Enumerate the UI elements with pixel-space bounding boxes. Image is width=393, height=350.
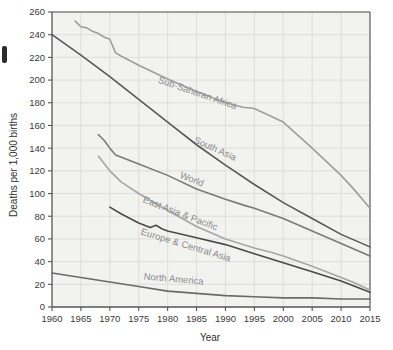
y-tick-label: 100 (29, 188, 45, 199)
x-tick-label: 1980 (157, 313, 178, 324)
x-tick-label: 2005 (302, 313, 323, 324)
y-tick-label: 160 (29, 120, 45, 131)
x-tick-label: 1960 (41, 313, 62, 324)
x-tick-label: 2010 (331, 313, 352, 324)
x-tick-label: 1985 (186, 313, 207, 324)
y-tick-label: 40 (34, 256, 45, 267)
x-tick-label: 1970 (99, 313, 120, 324)
y-tick-label: 140 (29, 143, 45, 154)
y-tick-label: 80 (34, 211, 45, 222)
y-tick-label: 0 (40, 301, 45, 312)
x-tick-label: 1975 (128, 313, 149, 324)
y-tick-label: 200 (29, 74, 45, 85)
y-tick-label: 120 (29, 165, 45, 176)
y-tick-label: 240 (29, 29, 45, 40)
y-tick-label: 220 (29, 52, 45, 63)
y-tick-label: 20 (34, 279, 45, 290)
plot-area (52, 12, 370, 307)
y-tick-label: 180 (29, 97, 45, 108)
x-tick-label: 2000 (273, 313, 294, 324)
line-chart: 020406080100120140160180200220240260 196… (0, 0, 393, 350)
x-axis-title: Year (200, 332, 221, 343)
y-axis-title: Deaths per 1,000 births (8, 113, 19, 217)
x-tick-label: 1990 (215, 313, 236, 324)
x-tick-label: 1965 (70, 313, 91, 324)
y-tick-label: 60 (34, 233, 45, 244)
edge-artifact (2, 46, 7, 63)
x-tick-label: 2015 (359, 313, 380, 324)
x-tick-label: 1995 (244, 313, 265, 324)
y-tick-label: 260 (29, 6, 45, 17)
chart-figure: 020406080100120140160180200220240260 196… (0, 0, 393, 350)
